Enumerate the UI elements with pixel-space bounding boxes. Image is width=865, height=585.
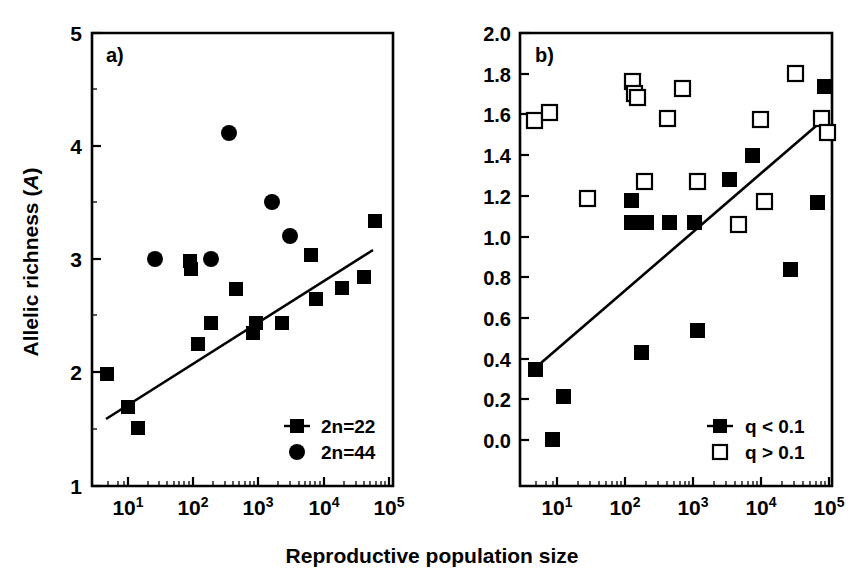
legend-entry-2n44: 2n=44 xyxy=(289,442,376,463)
panel-b-xtick-4: 104 xyxy=(745,494,776,519)
legend-label-q-lt: q < 0.1 xyxy=(745,416,805,437)
legend-label-2n22: 2n=22 xyxy=(321,416,375,437)
filled-circle-icon xyxy=(289,444,305,460)
data-point xyxy=(203,251,219,267)
data-point xyxy=(722,172,737,187)
panel-a-x-ticks xyxy=(108,477,389,486)
panel-a-ytick-1: 1 xyxy=(70,475,82,498)
panel-b-x-ticks xyxy=(536,477,829,486)
data-point xyxy=(357,270,371,284)
panel-b-ytick-0-8: 0.8 xyxy=(483,267,511,289)
svg-text:Allelic richness (A): Allelic richness (A) xyxy=(19,167,42,356)
data-point xyxy=(675,81,690,96)
panel-a-series-2n22 xyxy=(100,214,382,435)
data-point xyxy=(184,262,198,276)
data-point xyxy=(368,214,382,228)
data-point xyxy=(690,174,705,189)
panel-b-ytick-0-4: 0.4 xyxy=(483,349,512,371)
legend-entry-2n22: 2n=22 xyxy=(284,416,375,437)
data-point xyxy=(309,292,323,306)
panel-a-x-tick-labels: 101 102 103 104 105 xyxy=(112,494,404,519)
panel-a-series-2n44 xyxy=(147,125,298,267)
data-point xyxy=(624,215,639,230)
data-point xyxy=(634,345,649,360)
panel-b-y-tick-labels: 2.0 1.8 1.6 1.4 1.2 1.0 0.8 0.6 0.4 0.2 … xyxy=(483,23,512,452)
data-point xyxy=(264,194,280,210)
panel-a-ytick-5: 5 xyxy=(70,22,82,45)
data-point xyxy=(662,215,677,230)
data-point xyxy=(527,113,542,128)
data-point xyxy=(637,174,652,189)
panel-a-legend: 2n=22 2n=44 xyxy=(284,416,376,463)
panel-b-ytick-1-6: 1.6 xyxy=(483,104,511,126)
panel-a-label: a) xyxy=(106,44,124,66)
scatter-figure: Allelic richness (A) Reproductive popula… xyxy=(0,0,865,585)
panel-b-xtick-3: 103 xyxy=(677,494,708,519)
panel-a-xtick-2: 102 xyxy=(177,494,208,519)
panel-b-ytick-2-0: 2.0 xyxy=(483,23,511,45)
data-point xyxy=(545,432,560,447)
panel-b-x-tick-labels: 101 102 103 104 105 xyxy=(541,494,844,519)
open-square-icon xyxy=(713,445,727,459)
legend-label-q-gt: q > 0.1 xyxy=(745,442,805,463)
panel-a-y-tick-labels: 5 4 3 2 1 xyxy=(70,22,82,498)
data-point xyxy=(131,421,145,435)
data-point xyxy=(204,316,218,330)
data-point xyxy=(660,111,675,126)
data-point xyxy=(542,105,557,120)
panel-b-ytick-0-6: 0.6 xyxy=(483,308,511,330)
panel-b-xtick-5: 105 xyxy=(813,494,844,519)
panel-b-ytick-0-0: 0.0 xyxy=(483,430,511,452)
panel-a-xtick-5: 105 xyxy=(373,494,404,519)
panel-b: b) 2.0 1.8 1.6 1.4 1.2 xyxy=(483,23,845,519)
panel-a-ytick-4: 4 xyxy=(70,135,82,158)
panel-a-regression-line xyxy=(106,250,373,419)
data-point xyxy=(820,125,835,140)
data-point xyxy=(788,66,803,81)
filled-square-icon xyxy=(713,419,727,433)
panel-a-ytick-3: 3 xyxy=(70,248,82,271)
data-point xyxy=(556,389,571,404)
y-axis-title-main: Allelic richness ( xyxy=(19,190,42,357)
panel-a: a) 5 4 3 2 1 xyxy=(70,22,404,519)
panel-a-xtick-4: 104 xyxy=(308,494,339,519)
data-point xyxy=(817,79,832,94)
data-point xyxy=(731,217,746,232)
data-point xyxy=(630,90,645,105)
panel-b-legend: q < 0.1 q > 0.1 xyxy=(707,416,805,463)
legend-entry-q-lt: q < 0.1 xyxy=(707,416,805,437)
data-point xyxy=(757,194,772,209)
data-point xyxy=(121,400,135,414)
panel-b-ytick-1-2: 1.2 xyxy=(483,186,511,208)
panel-a-xtick-3: 103 xyxy=(242,494,273,519)
y-axis-title-italic: A xyxy=(19,174,42,190)
data-point xyxy=(528,362,543,377)
data-point xyxy=(814,111,829,126)
data-point xyxy=(249,316,263,330)
data-point xyxy=(639,215,654,230)
panel-b-ytick-0-2: 0.2 xyxy=(483,389,511,411)
data-point xyxy=(191,337,205,351)
panel-b-xtick-1: 101 xyxy=(541,494,572,519)
panel-b-regression-line xyxy=(534,120,823,369)
data-point xyxy=(690,323,705,338)
y-axis-title: Allelic richness (A) xyxy=(19,167,42,356)
legend-label-2n44: 2n=44 xyxy=(321,442,376,463)
y-axis-title-close: ) xyxy=(19,167,42,174)
data-point xyxy=(275,316,289,330)
panel-b-series-q-lt xyxy=(528,79,832,447)
data-point xyxy=(147,251,163,267)
panel-b-ytick-1-8: 1.8 xyxy=(483,64,511,86)
panel-b-xtick-2: 102 xyxy=(609,494,640,519)
data-point xyxy=(783,262,798,277)
data-point xyxy=(624,193,639,208)
data-point xyxy=(753,112,768,127)
panel-b-ytick-1-4: 1.4 xyxy=(483,145,512,167)
data-point xyxy=(100,367,114,381)
legend-entry-q-gt: q > 0.1 xyxy=(713,442,805,463)
svg-text:Reproductive population size: Reproductive population size xyxy=(286,544,579,567)
panel-b-ytick-1-0: 1.0 xyxy=(483,227,511,249)
data-point xyxy=(745,148,760,163)
data-point xyxy=(335,281,349,295)
panel-b-label: b) xyxy=(535,44,554,66)
